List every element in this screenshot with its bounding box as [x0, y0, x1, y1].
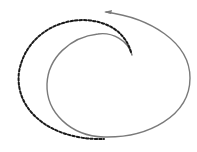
spiral-diagram [0, 0, 197, 152]
arrowhead-icon [104, 10, 112, 14]
dashed-outer-path [19, 20, 131, 139]
solid-spiral-path [47, 12, 190, 137]
diagram-svg [0, 0, 197, 152]
